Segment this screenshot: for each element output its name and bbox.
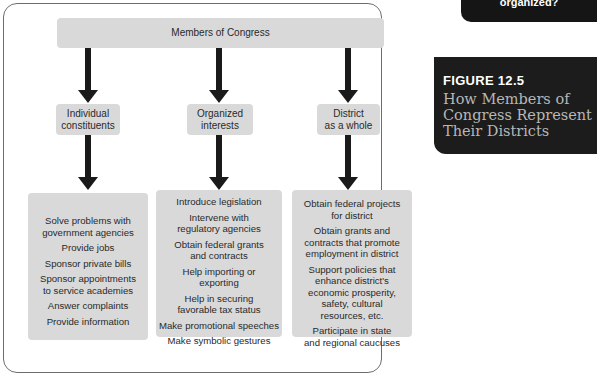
- figure-caption-panel: FIGURE 12.5 How Members of Congress Repr…: [434, 57, 597, 154]
- branch-label: Organized interests: [197, 108, 243, 131]
- list-item: Make symbolic gestures: [158, 335, 280, 347]
- cropped-question-box: organized?: [461, 0, 597, 22]
- list-item: Help in securing favorable tax status: [158, 293, 280, 316]
- branch-label: Individual constituents: [61, 108, 114, 131]
- list-item: Make promotional speeches: [158, 320, 280, 332]
- list-item: Help importing or exporting: [158, 266, 280, 289]
- activity-list-organized-interests: Introduce legislation Intervene with reg…: [156, 190, 282, 337]
- list-item: Sponsor private bills: [30, 258, 146, 270]
- figure-title: How Members of Congress Represent Their …: [443, 91, 597, 139]
- arrow-down-icon: [209, 48, 229, 104]
- list-item: Obtain grants and contracts that promote…: [294, 225, 410, 260]
- figure-page: organized? Members of Congress Individua…: [0, 0, 597, 381]
- branch-node-district-as-a-whole: District as a whole: [317, 104, 380, 135]
- activity-list-district-as-a-whole: Obtain federal projects for district Obt…: [292, 190, 412, 337]
- root-node-label: Members of Congress: [171, 27, 269, 39]
- figure-number: FIGURE 12.5: [443, 73, 597, 88]
- list-item: Support policies that enhance district's…: [294, 264, 410, 322]
- arrow-down-icon: [78, 135, 98, 192]
- list-item: Introduce legislation: [158, 196, 280, 208]
- list-item: Intervene with regulatory agencies: [158, 212, 280, 235]
- cropped-question-text: organized?: [461, 0, 597, 8]
- branch-node-individual-constituents: Individual constituents: [56, 104, 120, 135]
- list-item: Obtain federal projects for district: [294, 198, 410, 221]
- root-node-members-of-congress: Members of Congress: [57, 18, 384, 48]
- arrow-down-icon: [338, 48, 358, 104]
- arrow-down-icon: [209, 135, 229, 192]
- list-item: Obtain federal grants and contracts: [158, 239, 280, 262]
- arrow-down-icon: [338, 135, 358, 192]
- list-item: Sponsor appointments to service academie…: [30, 273, 146, 296]
- activity-list-individual-constituents: Solve problems with government agencies …: [28, 193, 148, 340]
- arrow-down-icon: [78, 48, 98, 104]
- branch-label: District as a whole: [325, 108, 373, 131]
- list-item: Provide information: [30, 316, 146, 328]
- list-item: Solve problems with government agencies: [30, 215, 146, 238]
- list-item: Answer complaints: [30, 300, 146, 312]
- branch-node-organized-interests: Organized interests: [187, 104, 253, 135]
- list-item: Participate in state and regional caucus…: [294, 325, 410, 348]
- list-item: Provide jobs: [30, 242, 146, 254]
